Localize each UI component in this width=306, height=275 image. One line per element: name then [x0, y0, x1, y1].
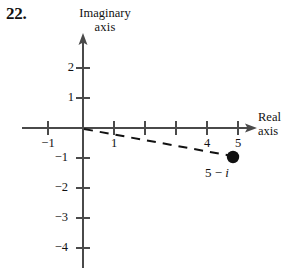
point-label-imaginary-unit: i — [225, 165, 229, 180]
x-tick-label-5: 5 — [228, 136, 248, 151]
plotted-point-5-minus-i — [227, 151, 239, 163]
y-tick-label-1: 1 — [48, 90, 74, 105]
y-tick-label-minus3: −3 — [42, 210, 68, 225]
point-label-operator: − — [215, 165, 222, 180]
complex-plane-figure: 22. Imaginary axis Real axis — [0, 0, 306, 275]
point-label-5-minus-i: 5 − i — [205, 165, 229, 181]
x-tick-label-4: 4 — [197, 136, 217, 151]
y-tick-label-minus4: −4 — [42, 240, 68, 255]
y-tick-label-2: 2 — [48, 60, 74, 75]
x-tick-label-1: 1 — [104, 136, 124, 151]
x-tick-label-minus1: −1 — [38, 136, 58, 151]
y-tick-label-minus2: −2 — [42, 180, 68, 195]
y-tick-label-minus1: −1 — [42, 150, 68, 165]
